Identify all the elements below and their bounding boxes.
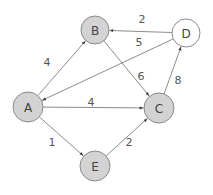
edge-d-b <box>110 31 173 33</box>
node-c: C <box>144 93 174 123</box>
edge-a-e <box>39 117 83 156</box>
edge-weight-label: 6 <box>138 70 145 83</box>
node-label: C <box>155 102 163 116</box>
node-label: D <box>181 27 190 41</box>
node-label: E <box>91 160 99 174</box>
node-label: B <box>91 24 99 38</box>
nodes-layer: ABCDE <box>13 16 200 181</box>
edge-weight-label: 4 <box>44 56 51 69</box>
node-d: D <box>172 19 200 47</box>
edge-weight-label: 2 <box>126 136 133 149</box>
graph-diagram: 44126825 ABCDE <box>0 0 213 195</box>
edge-weight-label: 8 <box>175 74 182 87</box>
node-b: B <box>81 16 109 44</box>
node-e: E <box>80 151 110 181</box>
node-label: A <box>24 101 33 115</box>
edge-weight-label: 5 <box>136 36 143 49</box>
edge-d-a <box>42 39 173 101</box>
node-a: A <box>13 92 43 122</box>
edge-c-d <box>164 47 181 94</box>
graph-canvas: 44126825 ABCDE <box>0 0 213 195</box>
edge-weight-label: 2 <box>139 13 146 26</box>
edges-layer: 44126825 <box>38 13 182 156</box>
edge-weight-label: 1 <box>49 136 56 149</box>
edge-weight-label: 4 <box>88 96 95 109</box>
